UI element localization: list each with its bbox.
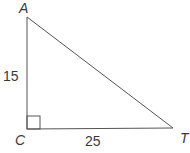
side-label-ct: 25 bbox=[85, 134, 101, 148]
vertex-label-t: T bbox=[180, 131, 189, 145]
side-label-ac: 15 bbox=[3, 69, 19, 83]
right-triangle-diagram: A 15 C 25 T bbox=[0, 0, 190, 153]
vertex-label-a: A bbox=[19, 1, 28, 15]
right-angle-marker bbox=[27, 116, 40, 129]
vertex-label-c: C bbox=[15, 133, 25, 147]
triangle-act bbox=[27, 17, 173, 129]
triangle-svg bbox=[0, 0, 190, 153]
